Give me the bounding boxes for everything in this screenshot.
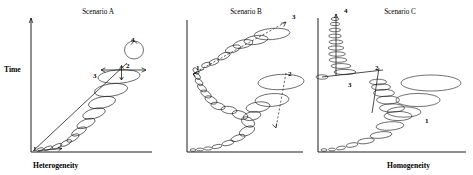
panel-b-upper-arrowhead [281,22,286,27]
panel-b-label-1: 1 [196,64,200,72]
panel-a-title: Scenario A [82,8,115,16]
panel-c-label-2: 2 [375,64,379,72]
panel-a-origin-arrow [38,149,62,151]
panel-c-connector-line [322,70,383,77]
panel-scenario-c: Scenario C Homogeneity 1 2 3 4 [316,7,466,170]
panel-a-label-2: 2 [126,62,130,70]
panel-scenario-a: Scenario A Heterogeneity 1 2 3 4 [29,8,152,170]
panel-b-ellipse-chain-upper [201,27,291,69]
panel-b-label-3: 3 [292,13,296,21]
panel-c-label-4: 4 [344,7,348,15]
three-panel-scenario-figure: Scenario A Heterogeneity 1 2 3 4 [0,0,473,175]
panel-scenario-b: Scenario B 1 2 3 [187,8,304,152]
panel-b-origin-arrowhead [193,73,197,76]
panel-a-trend-line [33,63,127,151]
panel-b-label-2: 2 [288,70,292,78]
panel-a-x-axis-label: Heterogeneity [33,161,79,170]
panel-c-x-axis-label: Homogeneity [387,161,430,170]
panel-b-lower-arrowhead [272,123,276,128]
panel-c-label-3: 3 [348,81,352,89]
panel-b-ellipse-cluster-right [242,73,304,122]
panel-b-lower-trend-arrow [276,73,286,128]
panel-c-descending-line [372,68,379,113]
panel-a-label-4: 4 [131,36,135,44]
panel-b-title: Scenario B [230,8,262,16]
panel-c-title: Scenario C [384,8,416,16]
y-axis-label: Time [4,65,21,74]
panel-c-ellipse-stack-upper [328,18,356,75]
panel-a-label-3: 3 [93,72,97,80]
figure-canvas: Scenario A Heterogeneity 1 2 3 4 [0,0,473,175]
panel-c-large-right-ellipses [387,75,461,117]
panel-c-ellipse-stack-middle [370,79,413,120]
panel-a-label-1: 1 [33,145,37,153]
panel-c-ellipse-trail-lower [321,121,404,151]
panel-c-label-1: 1 [425,117,429,125]
panel-a-ellipse-chain [36,68,140,152]
